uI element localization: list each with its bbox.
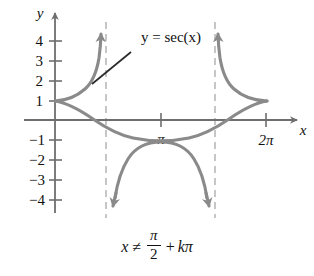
y-tick-label-4: 4 — [36, 33, 44, 49]
caption-variable: x — [121, 238, 128, 255]
x-tick-label-pi: π — [157, 131, 165, 147]
caption-term: kπ — [178, 238, 193, 255]
secant-branch-middle-arrow-right — [206, 193, 209, 206]
y-axis-label: y — [35, 5, 44, 21]
y-tick-label-minus-3: −3 — [29, 172, 45, 188]
x-tick-label-2pi: 2π — [258, 132, 274, 148]
curve-label: y = sec(x) — [141, 29, 201, 46]
caption-numerator: π — [147, 228, 161, 244]
secant-branch-left — [55, 34, 101, 101]
domain-caption: x≠π2+kπ — [0, 228, 314, 262]
y-tick-label-2: 2 — [36, 73, 44, 89]
caption-fraction: π2 — [147, 228, 161, 262]
secant-branch-right — [218, 34, 267, 101]
y-tick-label-3: 3 — [36, 53, 44, 69]
x-axis-label: x — [299, 122, 307, 138]
y-tick-label-minus-2: −2 — [29, 152, 45, 168]
secant-branch-middle — [115, 142, 207, 198]
caption-denominator: 2 — [147, 247, 161, 263]
caption-relation: ≠ — [132, 238, 141, 255]
y-tick-label-minus-4: −4 — [29, 192, 45, 208]
caption-operator: + — [166, 238, 175, 255]
y-tick-label-minus-1: −1 — [29, 132, 45, 148]
secant-branch-middle-arrow-left — [113, 193, 116, 206]
y-tick-label-1: 1 — [36, 93, 44, 109]
